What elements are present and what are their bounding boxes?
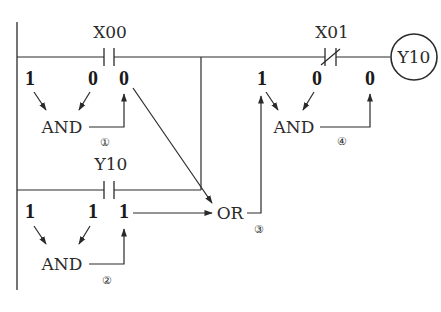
value: 0 xyxy=(365,67,375,89)
and-operator-4: AND xyxy=(273,117,315,137)
value: 1 xyxy=(25,200,35,222)
value: 0 xyxy=(312,67,322,89)
arrow xyxy=(247,96,261,213)
contact-x01-label: X01 xyxy=(315,22,349,42)
contact-x00-label: X00 xyxy=(93,22,127,42)
step-number-1: ① xyxy=(100,136,110,148)
arrow xyxy=(303,92,314,110)
ladder-diagram: X00 X01 Y10 Y10 1 0 0 AND ① xyxy=(0,0,441,312)
step-number-4: ④ xyxy=(337,135,347,147)
arrow xyxy=(320,94,370,127)
coil-y10[interactable]: Y10 xyxy=(391,34,437,80)
contact-x00[interactable] xyxy=(104,48,114,66)
arrow xyxy=(79,92,90,110)
coil-y10-label: Y10 xyxy=(397,47,431,67)
rung-2: Y10 xyxy=(17,154,201,199)
value: 1 xyxy=(119,200,129,222)
arrow xyxy=(79,226,90,244)
arrow xyxy=(133,88,212,203)
eval-step-1: 1 0 0 AND ① xyxy=(25,67,129,148)
contact-y10[interactable] xyxy=(104,181,114,199)
arrow xyxy=(34,92,46,110)
and-operator-2: AND xyxy=(41,254,83,274)
step-number-3: ③ xyxy=(254,223,264,235)
arrow xyxy=(89,229,124,264)
value: 1 xyxy=(88,200,98,222)
value: 0 xyxy=(88,67,98,89)
eval-step-3: OR ③ xyxy=(133,88,266,235)
contact-y10-label: Y10 xyxy=(94,154,128,174)
arrow xyxy=(89,94,124,127)
value: 1 xyxy=(257,67,267,89)
and-operator-1: AND xyxy=(41,117,83,137)
arrow xyxy=(34,226,46,244)
or-operator: OR xyxy=(217,203,245,223)
eval-step-4: 1 0 0 AND ④ xyxy=(257,67,375,147)
value: 0 xyxy=(119,67,129,89)
step-number-2: ② xyxy=(102,274,112,286)
value: 1 xyxy=(25,67,35,89)
eval-step-2: 1 1 1 AND ② xyxy=(25,200,129,286)
arrow xyxy=(266,92,278,110)
